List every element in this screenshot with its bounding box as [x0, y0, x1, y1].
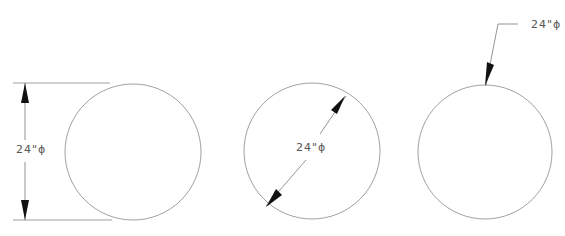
arrow-lower-left-icon — [266, 189, 282, 207]
arrow-down-icon — [21, 200, 29, 220]
dimension-label-1: 24"ϕ — [16, 143, 46, 156]
leader-arrow-icon — [485, 62, 494, 86]
leader-line — [486, 24, 518, 85]
dimension-diagram — [0, 0, 565, 236]
dimension-label-3: 24"ϕ — [531, 18, 561, 31]
circle-1 — [65, 84, 201, 220]
figure-leader-dimension — [418, 24, 552, 219]
dimension-label-2: 24"ϕ — [296, 141, 326, 154]
circle-3 — [418, 85, 552, 219]
arrow-up-icon — [21, 83, 29, 103]
arrow-upper-right-icon — [331, 96, 345, 114]
